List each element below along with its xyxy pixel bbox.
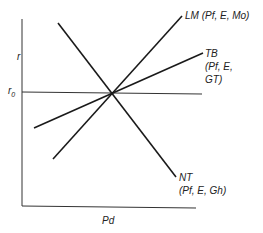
nt-label-line2: (Pf, E, Gh) bbox=[179, 185, 226, 196]
y-axis-label: r bbox=[17, 51, 21, 62]
nt-curve bbox=[58, 23, 176, 177]
tb-label-line1: TB bbox=[205, 48, 218, 59]
tb-label-line3: GT) bbox=[205, 74, 222, 85]
r0-label: r0 bbox=[8, 85, 15, 98]
tb-label-line2: (Pf, E, bbox=[205, 61, 233, 72]
diagram-canvas: r r0 Pd LM (Pf, E, Mo) TB (Pf, E, GT) NT… bbox=[0, 0, 263, 233]
lm-label: LM (Pf, E, Mo) bbox=[185, 10, 249, 21]
nt-label-line1: NT bbox=[179, 172, 193, 183]
lm-curve bbox=[53, 16, 182, 159]
tb-curve bbox=[34, 53, 203, 128]
x-axis-label: Pd bbox=[102, 215, 115, 226]
x-axis bbox=[22, 206, 196, 208]
